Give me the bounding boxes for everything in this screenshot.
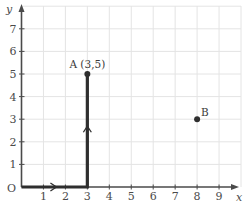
x-tick-label: 1 bbox=[40, 190, 47, 203]
axis-ticks: 1234567891234567 bbox=[10, 23, 223, 203]
x-tick-label: 5 bbox=[128, 190, 135, 203]
x-tick-label: 4 bbox=[106, 190, 113, 203]
x-tick-label: 7 bbox=[172, 190, 179, 203]
x-axis-label: x bbox=[236, 191, 243, 204]
coordinate-plane: 1234567891234567 A (3,5)B x y O bbox=[0, 0, 250, 213]
path-o-to-a bbox=[22, 74, 92, 191]
x-tick-label: 3 bbox=[84, 190, 91, 203]
x-axis-arrow-icon bbox=[231, 184, 239, 190]
y-tick-label: 1 bbox=[10, 158, 17, 171]
point-label-b: B bbox=[201, 106, 209, 118]
x-tick-label: 2 bbox=[62, 190, 69, 203]
y-tick-label: 7 bbox=[10, 23, 17, 36]
origin-label: O bbox=[7, 182, 16, 195]
x-tick-label: 9 bbox=[216, 190, 223, 203]
y-tick-label: 3 bbox=[10, 113, 17, 126]
grid bbox=[22, 6, 242, 187]
y-tick-label: 5 bbox=[10, 68, 17, 81]
y-axis-label: y bbox=[5, 3, 13, 16]
y-axis-arrow-icon bbox=[19, 4, 25, 12]
x-tick-label: 6 bbox=[150, 190, 157, 203]
y-tick-label: 6 bbox=[10, 45, 17, 58]
point-label-a: A (3,5) bbox=[68, 58, 105, 70]
point-b bbox=[194, 116, 200, 122]
path-line bbox=[22, 74, 88, 187]
x-tick-label: 8 bbox=[194, 190, 201, 203]
points: A (3,5)B bbox=[68, 58, 209, 122]
y-tick-label: 4 bbox=[10, 91, 17, 104]
y-tick-label: 2 bbox=[10, 136, 17, 149]
point-a bbox=[84, 71, 90, 77]
